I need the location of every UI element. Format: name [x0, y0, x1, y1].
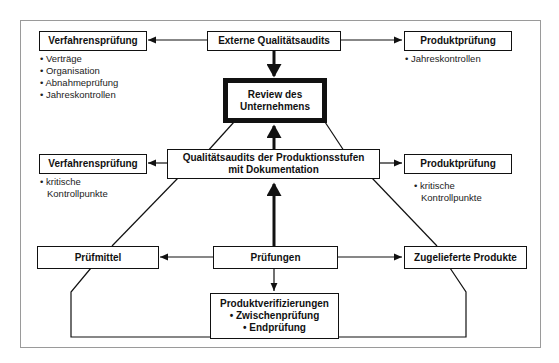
company-review-box: Review des Unternehmens [223, 78, 327, 123]
list-item: Verträge [40, 53, 118, 65]
supplied-products-box: Zugelieferte Produkte [404, 246, 527, 269]
procedure-check-mid-label: Verfahrensprüfung [48, 158, 137, 170]
product-check-top-list: Jahreskontrollen [405, 53, 481, 65]
external-audits-label: Externe Qualitätsaudits [218, 35, 330, 47]
stage-audits-line1: Qualitätsaudits der Produktionsstufen [183, 152, 365, 164]
procedure-check-mid-list: kritische Kontrollpunkte [40, 176, 108, 200]
list-item: Jahreskontrollen [405, 53, 481, 65]
external-audits-box: Externe Qualitätsaudits [207, 31, 341, 51]
company-review-label: Review des Unternehmens [240, 89, 310, 113]
list-item: Kontrollpunkte [414, 192, 482, 204]
product-verification-item: • Zwischenprüfung [230, 310, 320, 322]
product-verification-item: • Endprüfung [243, 322, 306, 334]
product-check-mid-box: Produktprüfung [404, 154, 512, 174]
procedure-check-top-label: Verfahrensprüfung [48, 35, 137, 47]
tests-label: Prüfungen [251, 252, 301, 264]
product-verification-box: Produktverifizierungen • Zwischenprüfung… [210, 293, 339, 339]
list-item: kritische [414, 180, 482, 192]
test-equipment-label: Prüfmittel [75, 252, 122, 264]
product-verification-title: Produktverifizierungen [220, 298, 329, 310]
list-item: Organisation [40, 65, 118, 77]
list-item: Kontrollpunkte [40, 188, 108, 200]
list-item: kritische [40, 176, 108, 188]
test-equipment-box: Prüfmittel [37, 246, 159, 269]
tests-box: Prüfungen [213, 246, 338, 269]
supplied-products-label: Zugelieferte Produkte [414, 252, 517, 264]
stage-audits-box: Qualitätsaudits der Produktionsstufen mi… [167, 149, 380, 179]
procedure-check-top-list: Verträge Organisation Abnahmeprüfung Jah… [40, 53, 118, 101]
product-check-mid-label: Produktprüfung [420, 158, 496, 170]
list-item: Jahreskontrollen [40, 89, 118, 101]
procedure-check-mid-box: Verfahrensprüfung [39, 154, 147, 174]
product-check-top-label: Produktprüfung [420, 35, 496, 47]
list-item: Abnahmeprüfung [40, 77, 118, 89]
stage-audits-line2: mit Dokumentation [228, 164, 319, 176]
product-check-mid-list: kritische Kontrollpunkte [414, 180, 482, 204]
product-check-top-box: Produktprüfung [404, 31, 512, 51]
procedure-check-top-box: Verfahrensprüfung [39, 31, 147, 51]
